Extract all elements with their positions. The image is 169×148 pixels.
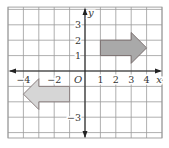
coordinate-plane: x y O −4−21234321−3 <box>0 0 169 148</box>
x-axis-arrowhead-left-icon <box>9 69 16 74</box>
x-tick-label: 3 <box>128 74 134 85</box>
x-tick-label: 4 <box>144 74 150 85</box>
x-tick-label: −2 <box>47 74 61 85</box>
x-tick-label: 2 <box>113 74 119 85</box>
right-arrow-shape <box>100 33 146 64</box>
y-tick-label: 3 <box>75 19 81 30</box>
coordinate-plane-figure: x y O −4−21234321−3 <box>0 0 169 148</box>
x-tick-label: −4 <box>16 74 30 85</box>
x-tick-label: 1 <box>97 74 103 85</box>
x-axis-arrowhead-right-icon <box>155 69 162 74</box>
origin-label: O <box>74 74 82 85</box>
y-tick-label: 1 <box>75 50 81 61</box>
axes <box>9 8 162 138</box>
y-axis-arrowhead-down-icon <box>83 131 88 138</box>
y-tick-label: −3 <box>67 112 81 123</box>
y-axis-label: y <box>87 7 94 18</box>
x-axis-label: x <box>156 74 162 85</box>
y-tick-label: 2 <box>75 35 81 46</box>
